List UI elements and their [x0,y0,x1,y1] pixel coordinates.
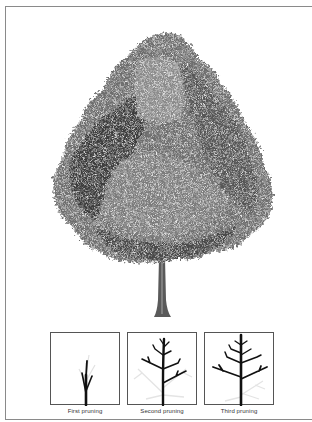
second-pruning-panel [127,332,197,405]
third-pruning-caption: Third pruning [194,408,284,414]
first-pruning-sapling-diagram [51,333,121,406]
second-pruning-tree-diagram [128,333,198,406]
first-pruning-panel [50,332,120,405]
third-pruning-tree-diagram [205,333,275,406]
third-pruning-panel [204,332,274,405]
mature-tree-illustration [0,0,312,325]
